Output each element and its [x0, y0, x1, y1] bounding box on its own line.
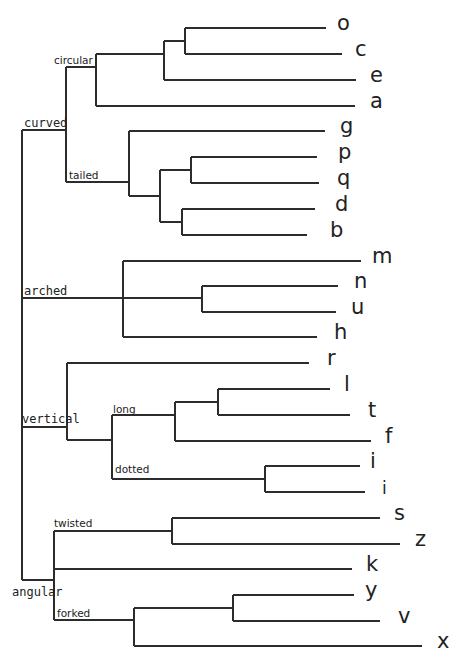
leaf-label-z: z: [415, 529, 426, 550]
leaf-label-v: v: [398, 606, 410, 627]
category-label-curved: curved: [24, 117, 67, 129]
leaf-label-r: r: [327, 348, 336, 369]
leaf-label-i-2: i: [382, 480, 387, 497]
leaf-label-o: o: [337, 13, 350, 34]
leaf-label-p: p: [338, 142, 351, 163]
subgroup-label-dotted: dotted: [115, 464, 149, 475]
leaf-label-g: g: [340, 116, 353, 137]
dendrogram: [0, 0, 467, 668]
category-label-angular: angular: [12, 586, 63, 598]
leaf-label-x: x: [437, 631, 449, 652]
leaf-label-y: y: [365, 580, 377, 601]
leaf-label-b: b: [330, 220, 343, 241]
subgroup-label-tailed: tailed: [69, 170, 99, 181]
leaf-label-l: l: [344, 374, 350, 395]
dendrogram-branches: [22, 28, 422, 646]
leaf-label-i-1: i: [370, 451, 376, 472]
leaf-label-u: u: [351, 297, 364, 318]
leaf-label-e: e: [370, 65, 383, 86]
leaf-label-h: h: [334, 322, 347, 343]
leaf-label-s: s: [394, 503, 405, 524]
category-label-arched: arched: [24, 285, 67, 297]
leaf-label-d: d: [335, 194, 348, 215]
subgroup-label-twisted: twisted: [54, 518, 92, 529]
category-label-vertical: vertical: [22, 413, 80, 425]
leaf-label-t: t: [368, 400, 376, 421]
leaf-label-k: k: [366, 554, 378, 575]
leaf-label-a: a: [370, 91, 383, 112]
leaf-label-q: q: [337, 168, 350, 189]
subgroup-label-long: long: [113, 404, 136, 415]
leaf-label-n: n: [354, 271, 367, 292]
subgroup-label-forked: forked: [57, 608, 90, 619]
leaf-label-m: m: [372, 246, 392, 267]
subgroup-label-circular: circular: [54, 55, 93, 66]
leaf-label-c: c: [355, 39, 367, 60]
leaf-label-f: f: [385, 426, 392, 447]
